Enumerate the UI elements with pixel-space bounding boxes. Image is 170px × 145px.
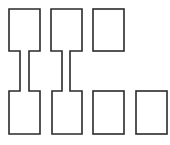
diagram-canvas <box>0 0 170 145</box>
rectangle-box <box>93 91 124 134</box>
connected-box-pair <box>9 9 40 134</box>
rectangle-box <box>93 9 124 51</box>
connected-box-pair <box>51 9 82 134</box>
rectangle-box <box>136 91 167 134</box>
